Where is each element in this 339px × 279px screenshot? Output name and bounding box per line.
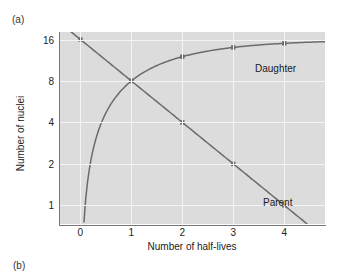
x-tick-label: 0 xyxy=(78,227,84,238)
x-axis-line xyxy=(59,225,326,226)
gridline-vertical xyxy=(233,32,234,224)
x-tick-label: 4 xyxy=(281,227,287,238)
y-tick-label: 1 xyxy=(38,200,54,211)
radioactive-decay-chart: 124816 01234 Number of nuclei Number of … xyxy=(0,0,339,279)
y-tick-label: 2 xyxy=(38,158,54,169)
gridline-vertical xyxy=(182,32,183,224)
x-tick-label: 1 xyxy=(129,227,135,238)
gridline-vertical xyxy=(131,32,132,224)
x-tick-label: 3 xyxy=(231,227,237,238)
series-label-parent: Parent xyxy=(263,197,292,208)
series-label-daughter: Daughter xyxy=(255,63,296,74)
y-tick-label: 16 xyxy=(38,34,54,45)
gridline-vertical xyxy=(284,32,285,224)
y-axis-line xyxy=(59,32,60,226)
x-tick-label: 2 xyxy=(180,227,186,238)
plot-area xyxy=(59,32,325,224)
y-tick-label: 4 xyxy=(38,117,54,128)
x-axis-title: Number of half-lives xyxy=(59,241,325,252)
y-tick-label: 8 xyxy=(38,75,54,86)
y-axis-title: Number of nuclei xyxy=(15,74,26,194)
gridline-vertical xyxy=(80,32,81,224)
